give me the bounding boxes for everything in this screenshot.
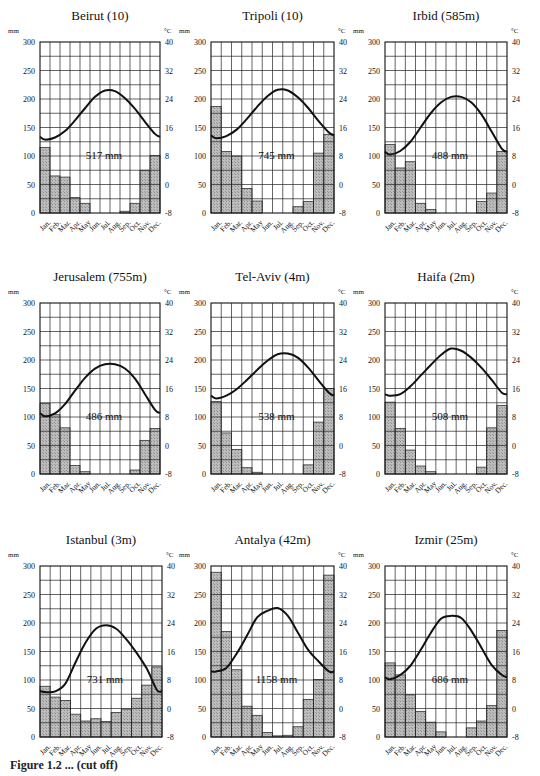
left-tick-label: 300 [194, 562, 206, 571]
precip-bar [221, 151, 231, 213]
left-tick-label: 200 [194, 619, 206, 628]
left-tick-label: 50 [372, 705, 380, 714]
left-tick-label: 0 [202, 733, 206, 742]
right-tick-label: 24 [339, 619, 347, 628]
left-tick-label: 250 [23, 591, 35, 600]
right-tick-label: 24 [512, 356, 520, 365]
precip-bar [140, 170, 150, 213]
precip-bar [395, 675, 405, 737]
month-label: Dec. [320, 218, 336, 234]
right-tick-label: -8 [339, 209, 346, 218]
month-label: Dec. [493, 218, 509, 234]
left-tick-label: 250 [194, 328, 206, 337]
right-tick-label: 8 [339, 152, 343, 161]
left-tick-label: 150 [368, 648, 380, 657]
right-tick-label: 0 [167, 705, 171, 714]
month-label: Dec. [146, 479, 162, 495]
precip-bar [60, 428, 70, 474]
precip-bar [70, 465, 80, 474]
chart-panel-beirut: Beirut (10)mm°C050100150200250300-808162… [4, 0, 190, 249]
right-axis-unit: °C [164, 288, 172, 296]
precip-bar [497, 151, 507, 213]
left-tick-label: 150 [23, 124, 35, 133]
right-axis-unit: °C [338, 27, 346, 35]
chart-title: Antalya (42m) [234, 532, 310, 547]
left-tick-label: 150 [368, 124, 380, 133]
right-tick-label: -8 [339, 733, 346, 742]
left-tick-label: 0 [202, 470, 206, 479]
precip-bar [211, 402, 221, 474]
right-tick-label: -8 [339, 470, 346, 479]
precip-bar [477, 467, 487, 474]
left-tick-label: 100 [368, 676, 380, 685]
right-tick-label: 0 [165, 181, 169, 190]
precip-bar [221, 632, 231, 737]
right-tick-label: 16 [512, 124, 520, 133]
right-axis-unit: °C [338, 288, 346, 296]
precip-bar [40, 147, 50, 213]
right-axis-unit: °C [338, 551, 346, 559]
left-tick-label: 250 [368, 67, 380, 76]
chart-title: Beirut (10) [71, 8, 128, 23]
precip-bar [142, 685, 152, 737]
precip-bar [80, 203, 90, 213]
left-tick-label: 150 [23, 648, 35, 657]
right-tick-label: 0 [339, 705, 343, 714]
precip-bar [211, 572, 221, 737]
right-tick-label: -8 [165, 470, 172, 479]
right-tick-label: 24 [339, 356, 347, 365]
left-tick-label: 300 [194, 299, 206, 308]
left-tick-label: 100 [368, 152, 380, 161]
annual-precip-total: 745 mm [258, 149, 295, 161]
right-axis-unit: °C [164, 27, 172, 35]
left-tick-label: 0 [376, 470, 380, 479]
precip-bar [111, 712, 121, 737]
chart-panel-haifa: Haifa (2m)mm°C050100150200250300-8081624… [349, 261, 537, 510]
precip-bar [324, 575, 334, 737]
precip-bar [385, 663, 395, 737]
month-label: Dec. [320, 742, 336, 758]
precip-bar [436, 732, 446, 737]
precip-bar [60, 701, 70, 737]
right-tick-label: 8 [165, 413, 169, 422]
right-tick-label: 24 [339, 95, 347, 104]
precip-bar [497, 630, 507, 737]
precip-bar [395, 428, 405, 474]
precip-bar [60, 177, 70, 213]
right-tick-label: 8 [339, 676, 343, 685]
left-tick-label: 100 [23, 152, 35, 161]
right-tick-label: 8 [165, 152, 169, 161]
left-tick-label: 0 [202, 209, 206, 218]
chart-title: Jerusalem (755m) [53, 269, 147, 284]
precip-bar [242, 706, 252, 737]
right-tick-label: 32 [167, 591, 175, 600]
left-tick-label: 50 [27, 442, 35, 451]
chart-title: Tel-Aviv (4m) [235, 269, 309, 284]
left-tick-label: 300 [368, 562, 380, 571]
left-tick-label: 200 [368, 95, 380, 104]
left-tick-label: 50 [372, 181, 380, 190]
right-tick-label: 16 [165, 124, 173, 133]
right-tick-label: 24 [165, 95, 173, 104]
precip-bar [426, 722, 436, 737]
right-tick-label: 0 [512, 442, 516, 451]
precip-bar [221, 433, 231, 474]
right-tick-label: 8 [512, 152, 516, 161]
precip-bar [416, 466, 426, 474]
right-tick-label: 16 [339, 648, 347, 657]
left-tick-label: 100 [194, 413, 206, 422]
right-tick-label: 40 [339, 38, 347, 47]
precip-bar [101, 722, 111, 737]
annual-precip-total: 517 mm [86, 149, 123, 161]
precip-bar [71, 714, 81, 737]
left-tick-label: 250 [23, 67, 35, 76]
precip-bar [314, 422, 324, 474]
precip-bar [324, 134, 334, 213]
right-tick-label: 8 [512, 676, 516, 685]
precip-bar [132, 698, 142, 737]
right-tick-label: 32 [339, 67, 347, 76]
precip-bar [303, 465, 313, 474]
right-tick-label: -8 [512, 470, 519, 479]
left-tick-label: 300 [23, 562, 35, 571]
